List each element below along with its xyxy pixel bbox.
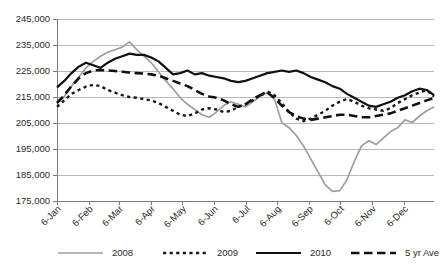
y-tick-label: 235,000	[16, 39, 50, 50]
y-tick-label: 205,000	[16, 117, 50, 128]
chart-legend: 2008200920105 yr Ave	[58, 247, 439, 258]
y-tick-label: 185,000	[16, 169, 50, 180]
x-tick-label: 6-Oct	[322, 203, 346, 227]
y-tick-label: 245,000	[16, 13, 50, 24]
x-tick-label: 6-Jun	[195, 203, 220, 228]
x-tick-label: 6-Sep	[289, 203, 315, 229]
series-line-2010	[57, 54, 434, 107]
y-tick-label: 195,000	[16, 143, 50, 154]
x-tick-label: 6-Mar	[100, 203, 125, 228]
y-axis: 245,000235,000225,000215,000205,000195,0…	[16, 13, 58, 206]
y-tick-label: 175,000	[16, 195, 50, 206]
gridlines	[57, 20, 434, 202]
legend-label-2008: 2008	[112, 247, 133, 258]
chart-canvas: 245,000235,000225,000215,000205,000195,0…	[0, 0, 441, 272]
series-lines	[57, 42, 434, 192]
x-tick-label: 6-Aug	[257, 203, 283, 229]
line-chart: 245,000235,000225,000215,000205,000195,0…	[0, 0, 441, 272]
x-tick-label: 6-Feb	[70, 203, 95, 228]
y-tick-label: 215,000	[16, 91, 50, 102]
legend-label-2009: 2009	[217, 247, 238, 258]
x-axis: 6-Jan6-Feb6-Mar6-Apr6-May6-Jun6-Jul6-Aug…	[38, 201, 434, 230]
x-tick-label: 6-Apr	[133, 203, 157, 227]
x-tick-label: 6-May	[161, 203, 188, 230]
x-tick-label: 6-Dec	[384, 203, 410, 229]
legend-label-2010: 2010	[310, 247, 331, 258]
x-tick-label: 6-Jan	[38, 203, 63, 228]
x-tick-label: 6-Nov	[352, 203, 378, 229]
x-tick-label: 6-Jul	[230, 203, 252, 225]
series-line-5-yr-ave	[57, 70, 434, 120]
y-tick-label: 225,000	[16, 65, 50, 76]
legend-label-5-yr-ave: 5 yr Ave	[405, 247, 439, 258]
